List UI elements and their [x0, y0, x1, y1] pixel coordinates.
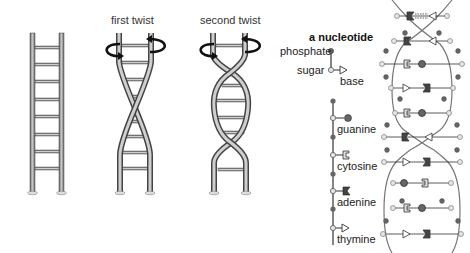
ladder-rungs	[35, 46, 60, 170]
phosphate-label: phosphate	[280, 46, 331, 57]
nucleotide-title: a nucleotide	[309, 32, 373, 43]
guanine-label: guanine	[337, 124, 376, 135]
thymine-icon	[342, 224, 349, 232]
cytosine-icon	[343, 151, 349, 159]
second-twist-caption: second twist	[200, 15, 261, 26]
cytosine-label: cytosine	[337, 161, 377, 172]
base-label: base	[340, 76, 364, 87]
ladder-left-rail	[30, 33, 35, 193]
straight-ladder	[28, 33, 67, 195]
double-helix	[380, 0, 465, 253]
sugar-label: sugar	[297, 65, 325, 76]
second-twist-ladder	[201, 33, 260, 195]
adenine-icon	[343, 187, 350, 195]
thymine-label: thymine	[337, 234, 376, 245]
first-twist-caption: first twist	[111, 15, 154, 26]
dna-diagram-canvas	[0, 0, 470, 253]
guanine-icon	[345, 115, 352, 122]
base-icon	[340, 66, 347, 74]
first-twist-ladder	[107, 33, 165, 195]
ladder-right-rail	[59, 33, 64, 193]
adenine-label: adenine	[337, 197, 376, 208]
sugar-icon	[328, 67, 333, 72]
